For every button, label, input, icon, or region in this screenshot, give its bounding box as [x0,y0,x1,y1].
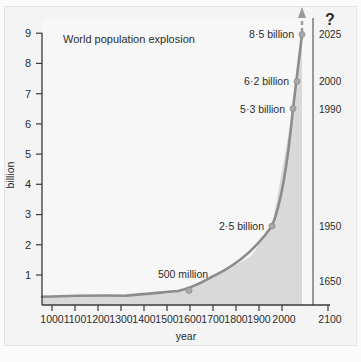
y-tick-marks [36,33,42,275]
x-tick-label-1200: 1200 [86,313,110,325]
x-tick-marks [52,305,328,311]
callout-500-million: 500 million [158,268,208,280]
data-point-500-million [186,288,192,294]
data-point-8-5-billion [299,32,305,38]
y-tick-label-3: 3 [25,208,31,220]
data-point-6-2-billion [294,78,300,84]
x-tick-label-1100: 1100 [64,313,87,325]
x-tick-label-2000: 2000 [272,313,296,325]
figure-container: 9 8 7 6 5 4 3 2 1 billion 1000 1100 1200 [0,0,361,362]
x-tick-label-1800: 1800 [224,313,248,325]
year-label-1990: 1990 [319,104,342,115]
y-tick-label-2: 2 [25,239,31,251]
x-tick-label-1700: 1700 [201,313,225,325]
x-tick-label-1400: 1400 [132,313,156,325]
chart-title: World population explosion [63,33,195,45]
future-question-mark: ? [325,11,335,28]
y-tick-label-8: 8 [25,57,31,69]
y-tick-label-7: 7 [25,88,31,100]
y-tick-label-1: 1 [25,269,31,281]
year-label-2000: 2000 [319,76,342,87]
population-chart: 9 8 7 6 5 4 3 2 1 billion 1000 1100 1200 [0,0,361,362]
x-tick-label-1000: 1000 [40,313,64,325]
x-tick-label-1900: 1900 [247,313,271,325]
callout-2-5-billion: 2·5 billion [219,220,264,232]
y-tick-label-6: 6 [25,118,31,130]
x-tick-label-2100: 2100 [318,313,342,325]
x-tick-label-1500: 1500 [155,313,179,325]
callout-6-2-billion: 6·2 billion [244,75,289,87]
x-tick-label-1300: 1300 [109,313,133,325]
y-tick-label-9: 9 [25,27,31,39]
callout-8-5-billion: 8·5 billion [249,28,294,40]
year-label-2025: 2025 [319,29,342,40]
data-point-5-3-billion [290,106,296,112]
x-tick-label-1600: 1600 [178,313,202,325]
x-axis-title: year [176,330,197,342]
y-tick-label-5: 5 [25,148,31,160]
callout-5-3-billion: 5·3 billion [240,103,285,115]
y-axis-title: billion [4,161,16,188]
data-point-2-5-billion [269,223,275,229]
y-tick-label-4: 4 [25,178,31,190]
year-label-1650: 1650 [319,276,342,287]
year-label-1950: 1950 [319,221,342,232]
projection-arrow-icon [298,7,306,18]
